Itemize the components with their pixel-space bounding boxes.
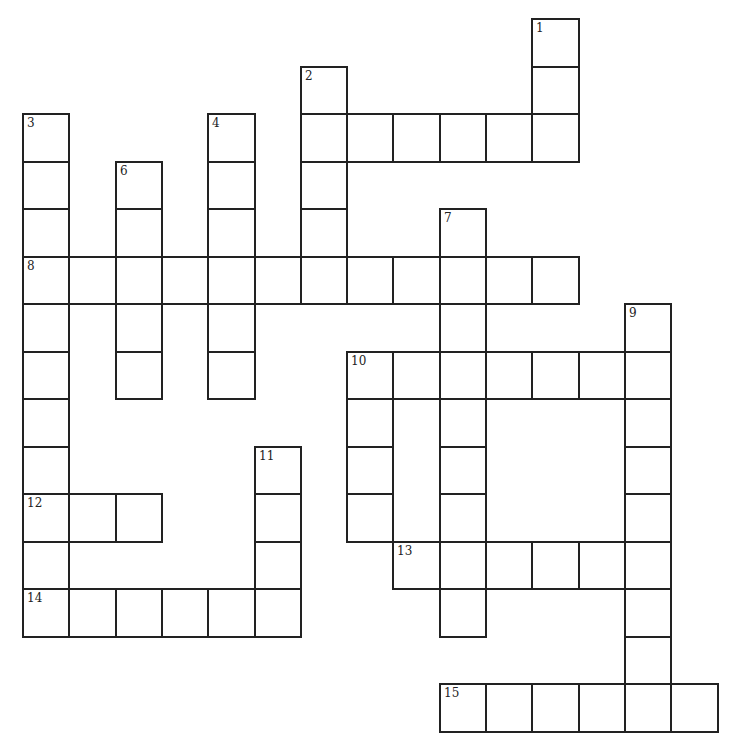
crossword-cell[interactable] <box>439 351 487 400</box>
crossword-cell[interactable] <box>670 683 719 733</box>
crossword-cell[interactable] <box>207 161 256 210</box>
clue-number: 12 <box>27 496 42 510</box>
crossword-cell[interactable] <box>254 493 302 543</box>
crossword-cell[interactable] <box>439 446 487 495</box>
crossword-cell[interactable] <box>346 446 394 495</box>
crossword-cell[interactable]: 2 <box>300 66 348 115</box>
crossword-cell[interactable] <box>300 208 348 258</box>
crossword-cell[interactable] <box>207 351 256 400</box>
crossword-cell[interactable] <box>115 256 163 305</box>
crossword-cell[interactable] <box>22 161 70 210</box>
crossword-grid: 12346789101112131415 <box>0 0 729 753</box>
clue-number: 7 <box>444 211 452 225</box>
crossword-cell[interactable] <box>624 636 672 685</box>
crossword-cell[interactable] <box>346 493 394 543</box>
crossword-cell[interactable] <box>531 351 580 400</box>
crossword-cell[interactable] <box>254 256 302 305</box>
crossword-cell[interactable] <box>254 588 302 638</box>
crossword-cell[interactable]: 9 <box>624 303 672 353</box>
crossword-cell[interactable] <box>531 256 580 305</box>
clue-number: 4 <box>212 116 220 130</box>
clue-number: 11 <box>259 449 274 463</box>
crossword-cell[interactable]: 8 <box>22 256 70 305</box>
crossword-cell[interactable] <box>161 588 209 638</box>
crossword-cell[interactable] <box>22 351 70 400</box>
crossword-cell[interactable]: 12 <box>22 493 70 543</box>
crossword-cell[interactable] <box>346 398 394 448</box>
crossword-cell[interactable] <box>578 351 626 400</box>
crossword-cell[interactable] <box>531 541 580 590</box>
crossword-cell[interactable] <box>624 588 672 638</box>
crossword-cell[interactable] <box>115 303 163 353</box>
crossword-cell[interactable] <box>346 256 394 305</box>
crossword-cell[interactable]: 11 <box>254 446 302 495</box>
crossword-cell[interactable]: 4 <box>207 113 256 163</box>
crossword-cell[interactable]: 7 <box>439 208 487 258</box>
crossword-cell[interactable] <box>300 161 348 210</box>
crossword-cell[interactable] <box>485 683 533 733</box>
crossword-cell[interactable]: 13 <box>392 541 441 590</box>
crossword-cell[interactable] <box>68 588 117 638</box>
crossword-cell[interactable] <box>22 541 70 590</box>
clue-number: 1 <box>536 21 544 35</box>
crossword-cell[interactable] <box>68 256 117 305</box>
crossword-cell[interactable] <box>624 541 672 590</box>
crossword-cell[interactable] <box>578 541 626 590</box>
crossword-cell[interactable] <box>624 351 672 400</box>
crossword-cell[interactable] <box>161 256 209 305</box>
crossword-cell[interactable] <box>531 113 580 163</box>
crossword-cell[interactable]: 10 <box>346 351 394 400</box>
crossword-cell[interactable] <box>392 113 441 163</box>
clue-number: 8 <box>27 259 35 273</box>
crossword-cell[interactable] <box>346 113 394 163</box>
crossword-cell[interactable] <box>439 493 487 543</box>
crossword-cell[interactable] <box>392 351 441 400</box>
crossword-cell[interactable] <box>439 588 487 638</box>
crossword-cell[interactable]: 15 <box>439 683 487 733</box>
crossword-cell[interactable]: 3 <box>22 113 70 163</box>
crossword-cell[interactable] <box>485 256 533 305</box>
crossword-cell[interactable] <box>439 303 487 353</box>
clue-number: 10 <box>351 354 366 368</box>
crossword-cell[interactable] <box>68 493 117 543</box>
crossword-cell[interactable] <box>392 256 441 305</box>
crossword-cell[interactable] <box>207 303 256 353</box>
crossword-cell[interactable] <box>531 66 580 115</box>
crossword-cell[interactable] <box>300 113 348 163</box>
crossword-cell[interactable] <box>439 398 487 448</box>
crossword-cell[interactable] <box>22 303 70 353</box>
crossword-cell[interactable] <box>485 541 533 590</box>
crossword-cell[interactable] <box>624 398 672 448</box>
clue-number: 13 <box>397 544 412 558</box>
crossword-cell[interactable] <box>578 683 626 733</box>
clue-number: 6 <box>120 164 128 178</box>
crossword-cell[interactable] <box>485 113 533 163</box>
crossword-cell[interactable] <box>254 541 302 590</box>
crossword-cell[interactable]: 14 <box>22 588 70 638</box>
crossword-cell[interactable] <box>531 683 580 733</box>
crossword-cell[interactable] <box>439 541 487 590</box>
crossword-cell[interactable] <box>439 113 487 163</box>
clue-number: 2 <box>305 69 313 83</box>
crossword-cell[interactable]: 1 <box>531 18 580 68</box>
crossword-cell[interactable] <box>300 256 348 305</box>
crossword-cell[interactable] <box>207 256 256 305</box>
crossword-cell[interactable] <box>115 588 163 638</box>
crossword-cell[interactable] <box>485 351 533 400</box>
crossword-cell[interactable] <box>22 446 70 495</box>
clue-number: 3 <box>27 116 35 130</box>
crossword-cell[interactable] <box>624 446 672 495</box>
crossword-cell[interactable] <box>207 208 256 258</box>
crossword-cell[interactable] <box>624 683 672 733</box>
crossword-cell[interactable] <box>115 493 163 543</box>
clue-number: 9 <box>629 306 637 320</box>
crossword-cell[interactable] <box>439 256 487 305</box>
crossword-cell[interactable] <box>624 493 672 543</box>
crossword-cell[interactable] <box>115 208 163 258</box>
crossword-cell[interactable]: 6 <box>115 161 163 210</box>
crossword-cell[interactable] <box>22 398 70 448</box>
crossword-cell[interactable] <box>115 351 163 400</box>
crossword-cell[interactable] <box>22 208 70 258</box>
crossword-cell[interactable] <box>207 588 256 638</box>
clue-number: 15 <box>444 686 459 700</box>
